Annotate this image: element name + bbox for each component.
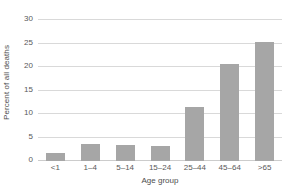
bar[interactable] [220,64,239,161]
x-axis-tick-label: 5–14 [108,163,143,172]
bar-slot [212,20,247,161]
y-axis-tick-label: 0 [29,156,33,164]
plot-area: 051015202530 [38,20,282,161]
x-axis-tick-label: 1–4 [73,163,108,172]
bar[interactable] [116,145,135,161]
y-axis-tick-label: 30 [24,15,33,23]
bars-group [38,20,282,161]
x-axis-tick-labels: <11–45–1415–2425–4445–64>65 [38,163,282,172]
x-axis-tick-label: <1 [38,163,73,172]
x-axis-title: Age group [38,176,282,185]
y-axis-tick-label: 25 [24,39,33,47]
bar-slot [247,20,282,161]
x-axis-tick-label: 45–64 [212,163,247,172]
bar-slot [177,20,212,161]
bar-slot [73,20,108,161]
bar-chart-figure: Percent of all deaths 051015202530 <11–4… [0,0,286,193]
y-axis-tick-label: 15 [24,86,33,94]
bar[interactable] [81,144,100,161]
bar-slot [38,20,73,161]
x-axis-tick-label: 15–24 [143,163,178,172]
y-axis-title: Percent of all deaths [0,0,14,165]
bar-slot [108,20,143,161]
bar-slot [143,20,178,161]
bar[interactable] [46,153,65,161]
y-axis-tick-label: 20 [24,62,33,70]
bar[interactable] [185,107,204,161]
y-axis-tick-label: 5 [29,133,33,141]
bar[interactable] [151,146,170,161]
y-axis-tick-label: 10 [24,109,33,117]
y-axis-title-text: Percent of all deaths [3,45,12,120]
bar[interactable] [255,42,274,161]
x-axis-tick-label: 25–44 [177,163,212,172]
x-axis-tick-label: >65 [247,163,282,172]
